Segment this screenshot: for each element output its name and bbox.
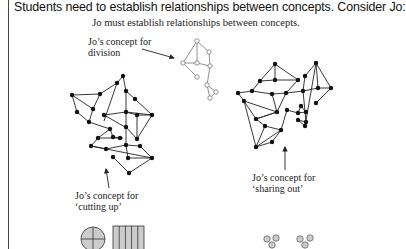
arrow-division [142,49,174,58]
circle-quartered-icon [81,227,105,249]
sharing-out-concept-graph [238,63,331,147]
rectangle-fifths-icon [113,226,144,249]
cutting-up-nodes [70,74,154,175]
sharing-out-nodes [236,61,333,149]
arrow-cutting-up [106,169,109,188]
division-nodes [181,39,218,100]
division-concept-graph [183,41,216,98]
grouped-dots-icon [264,235,313,248]
